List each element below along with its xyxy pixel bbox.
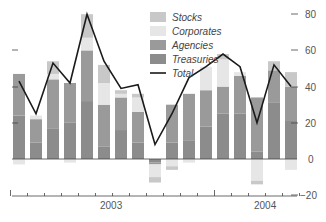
bar-segment-corporates [285, 159, 297, 170]
bar-segment-corporates [13, 159, 25, 164]
legend-label-corporates: Corporates [172, 26, 221, 37]
bar-segment-treasuries [166, 143, 178, 159]
bar-segment-agencies [285, 87, 297, 121]
bar-segment-treasuries [217, 114, 229, 159]
y-tick-neg20: −20 [300, 190, 317, 201]
bar-segment-treasuries [64, 123, 76, 159]
bar-segment-treasuries [30, 143, 42, 159]
bar-segment-agencies [132, 112, 144, 143]
x-axis [11, 190, 300, 196]
bar-segment-corporates [64, 159, 76, 163]
bar-segment-agencies [98, 105, 110, 147]
y-tick-80: 80 [305, 9, 317, 20]
bar-segment-stocks [115, 90, 127, 94]
x-year-2003: 2003 [100, 200, 123, 211]
bar-segment-corporates [115, 94, 127, 98]
legend-label-agencies: Agencies [171, 40, 213, 51]
bar-segment-agencies [13, 74, 25, 116]
bar-segment-agencies [166, 105, 178, 143]
bar-segment-corporates [81, 38, 93, 51]
bar-segment-agencies [183, 94, 195, 141]
bar-segment-stocks [285, 72, 297, 86]
legend-swatch-treasuries [150, 54, 166, 64]
bar-segment-agencies [81, 50, 93, 101]
legend-label-stocks: Stocks [172, 12, 202, 23]
bar-segment-corporates [251, 159, 263, 181]
bar-segment-treasuries [251, 152, 263, 159]
bar-segment-treasuries [13, 116, 25, 159]
bar-segment-corporates [166, 159, 178, 166]
bar-segment-agencies [149, 163, 161, 165]
bar-segment-corporates [30, 116, 42, 120]
bar-segment-agencies [217, 87, 229, 114]
bar-segment-stocks [251, 181, 263, 185]
bar-segment-corporates [149, 164, 161, 177]
chart-svg: 80 60 40 20 0 −20 2003 2004 Stocks Corpo… [0, 0, 326, 222]
legend-label-treasuries: Treasuries [172, 54, 219, 65]
y-tick-0: 0 [308, 154, 314, 165]
bar-segment-corporates [183, 159, 195, 163]
bar-segment-agencies [30, 119, 42, 143]
bar-segment-treasuries [149, 159, 161, 163]
legend-swatch-corporates [150, 26, 166, 36]
bar-segment-treasuries [268, 103, 280, 159]
bar-segment-agencies [64, 83, 76, 123]
stacked-bar-chart: 80 60 40 20 0 −20 2003 2004 Stocks Corpo… [0, 0, 326, 222]
bar-segment-treasuries [98, 146, 110, 159]
bar-segment-treasuries [115, 130, 127, 159]
bar-segment-agencies [47, 79, 59, 128]
bar-segment-agencies [115, 97, 127, 130]
bar-segment-treasuries [183, 141, 195, 159]
legend-label-total: Total [172, 68, 194, 79]
bar-segment-treasuries [285, 121, 297, 159]
x-year-2004: 2004 [254, 200, 277, 211]
bar-segment-corporates [98, 83, 110, 105]
bar-segment-treasuries [132, 143, 144, 159]
bar-segment-agencies [268, 70, 280, 103]
bar-segment-corporates [217, 59, 229, 86]
y-tick-60: 60 [305, 45, 317, 56]
legend-swatch-agencies [150, 40, 166, 50]
bar-segment-treasuries [47, 128, 59, 159]
y-tick-20: 20 [305, 118, 317, 129]
bar-segment-treasuries [200, 126, 212, 159]
bar-segment-treasuries [234, 114, 246, 159]
bar-segment-corporates [234, 72, 246, 76]
legend-swatch-stocks [150, 12, 166, 22]
bar-segment-stocks [166, 166, 178, 170]
y-tick-40: 40 [305, 82, 317, 93]
bar-segment-stocks [149, 177, 161, 182]
bar-segment-treasuries [81, 101, 93, 159]
bar-segment-agencies [200, 90, 212, 126]
